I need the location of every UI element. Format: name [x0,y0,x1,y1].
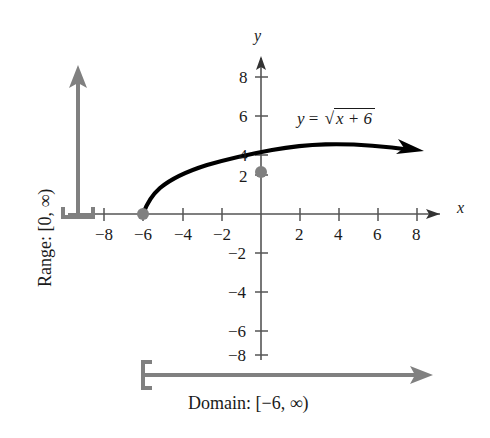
x-tick-label--4: −4 [174,226,192,243]
x-tick-label-6: 6 [373,226,382,243]
graph-figure [0,0,490,438]
y-tick-label-6: 6 [239,108,248,125]
radicand: x + 6 [334,108,375,127]
domain-label: Domain: [−6, ∞) [188,394,308,412]
equation-lhs: y [297,109,305,128]
y-tick-label--4: −4 [228,284,246,301]
x-tick-label--8: −8 [95,226,113,243]
point-x-intercept [137,208,149,220]
function-curve [143,144,412,214]
radical-sign: √ [325,109,334,128]
y-tick-label-8: 8 [239,69,248,86]
y-tick-label--2: −2 [228,245,246,262]
x-tick-label-2: 2 [295,226,304,243]
sqrt-icon: √x + 6 [323,108,375,127]
x-axis-label: x [457,200,464,216]
y-tick-label--6: −6 [228,323,246,340]
y-axis-label: y [254,28,261,44]
x-tick-label--2: −2 [213,226,231,243]
y-tick-label--8: −8 [228,347,246,364]
y-tick-label-2: 2 [239,168,248,185]
equation-equals: = [309,109,319,128]
x-tick-label-4: 4 [334,226,343,243]
point-y-intercept [255,166,267,178]
x-tick-label-8: 8 [412,226,421,243]
range-label: Range: [0, ∞) [36,189,54,287]
domain-annotation-marker [143,362,418,388]
function-curve-group [143,139,424,214]
y-tick-label-4: 4 [239,147,248,164]
range-annotation-marker [63,80,93,217]
x-tick-label--6: −6 [134,226,152,243]
coordinate-axes [68,56,440,360]
equation-label: y = √x + 6 [297,108,375,127]
